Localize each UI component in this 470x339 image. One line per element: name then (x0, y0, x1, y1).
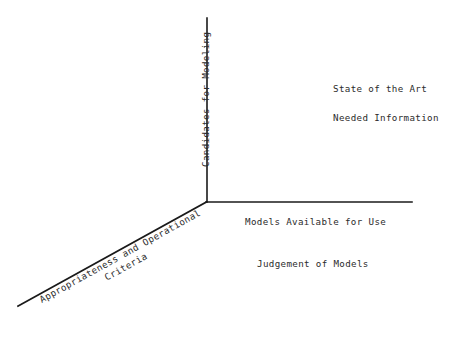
horizontal-axis-label: Models Available for Use (245, 217, 386, 226)
vertical-axis-label: Candidates for Modeling (201, 32, 210, 167)
annotation-state-of-the-art: State of the Art (333, 84, 427, 93)
diagram-canvas: Candidates for Modeling Models Available… (0, 0, 470, 339)
annotation-needed-information: Needed Information (333, 113, 439, 122)
annotation-judgement-of-models: Judgement of Models (257, 259, 369, 268)
